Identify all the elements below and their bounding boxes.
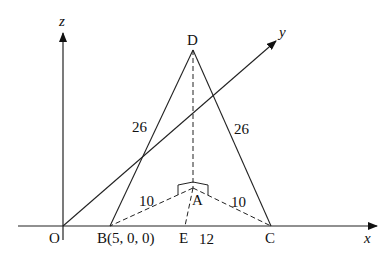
length-EC-label: 12 bbox=[199, 231, 214, 247]
point-B-label: B(5, 0, 0) bbox=[97, 230, 155, 247]
length-DB-label: 26 bbox=[132, 119, 148, 135]
point-C-label: C bbox=[265, 230, 275, 246]
length-AC-label: 10 bbox=[231, 194, 246, 210]
point-A-label: A bbox=[192, 192, 203, 208]
point-D-label: D bbox=[187, 32, 198, 48]
origin-label: O bbox=[49, 230, 60, 246]
coordinate-diagram: z y x O D B(5, 0, 0) C A E 26 26 10 10 1… bbox=[0, 0, 386, 253]
x-axis-label: x bbox=[363, 230, 371, 246]
point-E-label: E bbox=[179, 230, 188, 246]
z-axis-label: z bbox=[58, 13, 65, 29]
y-axis-label: y bbox=[277, 24, 286, 40]
length-DC-label: 26 bbox=[234, 121, 250, 137]
length-AB-label: 10 bbox=[139, 193, 154, 209]
